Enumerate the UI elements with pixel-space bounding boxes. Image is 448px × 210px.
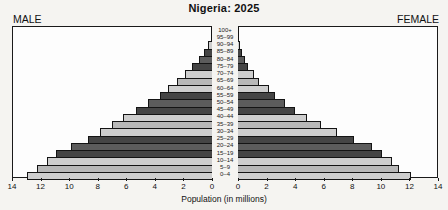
female-tick — [409, 178, 410, 181]
age-label: 25–29 — [212, 135, 238, 142]
age-label: 40–44 — [212, 113, 238, 120]
female-tick-label: 2 — [257, 182, 277, 191]
female-tick-label: 8 — [342, 182, 362, 191]
x-axis-title: Population (in millions) — [0, 194, 448, 204]
male-tick — [212, 178, 213, 181]
male-tick-label: 14 — [2, 182, 22, 191]
male-tick-label: 4 — [145, 182, 165, 191]
female-tick — [295, 178, 296, 181]
age-label: 55–59 — [212, 91, 238, 98]
female-tick — [238, 178, 239, 181]
male-tick — [183, 178, 184, 181]
female-tick-label: 0 — [228, 182, 248, 191]
age-label: 15–19 — [212, 149, 238, 156]
female-tick — [324, 178, 325, 181]
male-tick — [12, 178, 13, 181]
male-tick — [126, 178, 127, 181]
age-label: 10–14 — [212, 156, 238, 163]
age-label: 30–34 — [212, 127, 238, 134]
male-tick — [69, 178, 70, 181]
male-tick-label: 8 — [88, 182, 108, 191]
female-tick — [381, 178, 382, 181]
male-tick — [41, 178, 42, 181]
male-tick-label: 0 — [202, 182, 222, 191]
male-axis-title: MALE — [13, 13, 42, 25]
age-group-axis: 100+95–9990–9485–8980–8475–7970–7465–696… — [212, 26, 238, 178]
age-label: 45–49 — [212, 106, 238, 113]
female-tick-label: 4 — [285, 182, 305, 191]
age-label: 75–79 — [212, 62, 238, 69]
age-label: 5–9 — [212, 164, 238, 171]
male-pyramid-panel — [12, 26, 212, 178]
male-tick — [155, 178, 156, 181]
age-label: 100+ — [212, 26, 238, 33]
female-axis-title: FEMALE — [397, 13, 439, 25]
age-label: 95–99 — [212, 33, 238, 40]
male-tick-label: 2 — [173, 182, 193, 191]
female-tick — [438, 178, 439, 181]
male-tick-label: 6 — [116, 182, 136, 191]
age-label: 35–39 — [212, 120, 238, 127]
age-label: 90–94 — [212, 40, 238, 47]
female-tick — [267, 178, 268, 181]
male-tick — [98, 178, 99, 181]
male-tick-label: 10 — [59, 182, 79, 191]
female-tick-label: 10 — [371, 182, 391, 191]
age-label: 70–74 — [212, 69, 238, 76]
age-label: 85–89 — [212, 48, 238, 55]
age-label: 65–69 — [212, 77, 238, 84]
male-tick-label: 12 — [31, 182, 51, 191]
chart-title: Nigeria: 2025 — [0, 2, 448, 14]
female-tick — [352, 178, 353, 181]
female-tick-label: 12 — [399, 182, 419, 191]
female-pyramid-panel — [238, 26, 438, 178]
age-label: 20–24 — [212, 142, 238, 149]
age-label: 80–84 — [212, 55, 238, 62]
age-label: 50–54 — [212, 98, 238, 105]
female-tick-label: 14 — [428, 182, 448, 191]
age-label: 0–4 — [212, 171, 238, 178]
age-label: 60–64 — [212, 84, 238, 91]
female-tick-label: 6 — [314, 182, 334, 191]
